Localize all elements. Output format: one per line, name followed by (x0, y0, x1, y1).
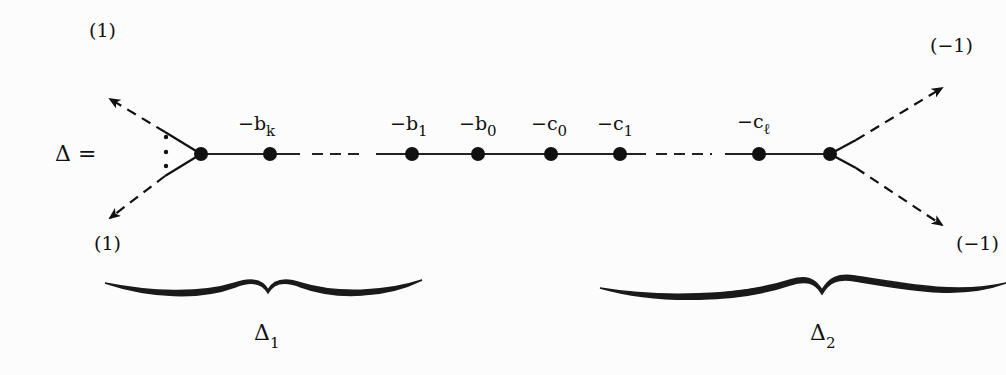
label-b-0: −b0 (459, 112, 497, 140)
right-vertex-node (823, 147, 837, 161)
brace-delta-2 (600, 275, 1006, 299)
left-bottom-weight-label: (1) (94, 232, 121, 254)
label-c-0: −c0 (531, 112, 567, 140)
node-b-1 (405, 147, 419, 161)
right-bottom-weight-label: (−1) (956, 232, 999, 254)
node-b-0 (471, 147, 485, 161)
label-c-ell: −cℓ (737, 110, 771, 138)
label-b-1: −b1 (390, 112, 428, 140)
label-c-1: −c1 (597, 112, 633, 140)
label-delta-1: Δ1 (254, 320, 279, 352)
left-arrows (110, 99, 201, 218)
left-top-weight-label: (1) (89, 19, 116, 41)
node-c-0 (544, 147, 558, 161)
brace-delta-1 (105, 280, 422, 296)
right-top-weight-label: (−1) (930, 34, 973, 56)
left-vertex-node (194, 147, 208, 161)
node-c-1 (613, 147, 627, 161)
diagram-graphics (0, 0, 1006, 375)
node-b-k (263, 147, 277, 161)
label-delta-2: Δ2 (810, 320, 835, 352)
label-b-k: −bk (238, 112, 275, 140)
right-arrows (830, 88, 942, 225)
delta-equals-label: Δ = (55, 141, 96, 166)
node-c-ell (752, 147, 766, 161)
chain-diagram: Δ = (1) (1) (−1) (−1) −bk −b1 −b0 −c0 −c… (0, 0, 1006, 375)
